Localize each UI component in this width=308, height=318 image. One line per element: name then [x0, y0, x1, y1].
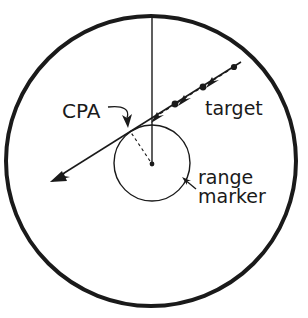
figure-background — [0, 0, 308, 318]
cpa-label: CPA — [62, 99, 101, 123]
target-history-dot — [231, 64, 237, 70]
own-ship-center-dot — [150, 162, 155, 167]
target-history-dot — [200, 84, 207, 91]
target-label: target — [205, 97, 263, 119]
radar-cpa-diagram: CPA target range marker — [0, 0, 308, 318]
target-history-dot — [172, 101, 179, 108]
range-marker-label-line2: marker — [198, 185, 266, 207]
